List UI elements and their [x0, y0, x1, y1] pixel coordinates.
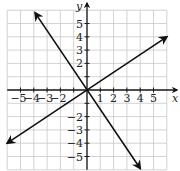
y-tick-label: −4: [67, 137, 83, 150]
y-tick-label: 2: [76, 57, 83, 70]
line-negative-slope: [35, 13, 140, 169]
y-tick-label: −2: [67, 111, 83, 124]
x-tick-label: 2: [110, 92, 117, 105]
coordinate-plane: −5−4−3−2123455432−2−3−4−5 x y: [0, 0, 180, 171]
y-axis-label: y: [75, 0, 83, 13]
x-tick-label: 3: [123, 92, 130, 105]
x-tick-label: 1: [97, 92, 104, 105]
x-tick-label: 5: [150, 92, 157, 105]
y-tick-label: 4: [76, 31, 83, 44]
x-axis-label: x: [172, 92, 179, 105]
y-tick-label: −5: [67, 151, 83, 164]
y-tick-label: −3: [67, 124, 83, 137]
x-tick-label: −2: [50, 92, 66, 105]
x-tick-label: 4: [137, 92, 144, 105]
y-tick-label: 3: [76, 44, 83, 57]
y-tick-label: 5: [76, 18, 83, 31]
